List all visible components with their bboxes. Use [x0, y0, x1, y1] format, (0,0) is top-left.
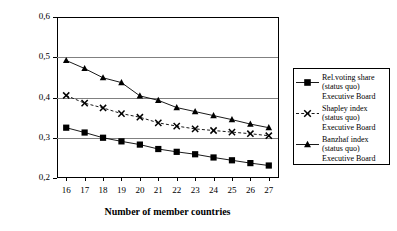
data-series — [63, 92, 272, 138]
y-axis-tick-label: 0,2 — [39, 173, 50, 182]
legend-label-line: Rel.voting share — [322, 73, 376, 82]
y-axis-tick-label: 0,5 — [39, 52, 50, 61]
plot-area — [57, 17, 278, 178]
legend-label-line: (status quo) — [322, 144, 376, 153]
legend-label-line: Shapley index — [322, 104, 376, 113]
series-layer — [57, 17, 278, 178]
legend-marker-x-icon — [294, 105, 321, 116]
legend-entry: Shapley index(status quo)Executive Board — [294, 104, 391, 132]
plot-frame-top — [57, 17, 279, 18]
legend-marker-triangle-icon — [294, 136, 321, 147]
data-series — [63, 125, 272, 169]
legend-marker-square-icon — [294, 74, 321, 85]
legend-label-line: Executive Board — [322, 92, 376, 101]
legend-label-line: Executive Board — [322, 154, 376, 163]
x-axis-tick-label: 27 — [257, 186, 281, 195]
legend-label: Banzhaf index(status quo)Executive Board — [321, 135, 376, 163]
legend-label-line: Banzhaf index — [322, 135, 376, 144]
chart-figure: 0,20,30,40,50,6 161718192021222324252627… — [0, 0, 397, 231]
chart-legend: Rel.voting share(status quo)Executive Bo… — [293, 68, 390, 165]
legend-entry: Banzhaf index(status quo)Executive Board — [294, 135, 391, 163]
data-series — [63, 57, 272, 130]
y-axis-tick — [53, 178, 57, 179]
x-axis-title: Number of member countries — [57, 206, 278, 217]
legend-label-line: (status quo) — [322, 82, 376, 91]
legend-label-line: Executive Board — [322, 123, 376, 132]
legend-label: Rel.voting share(status quo)Executive Bo… — [321, 73, 376, 101]
legend-entry: Rel.voting share(status quo)Executive Bo… — [294, 73, 391, 101]
y-axis-tick-label: 0,6 — [39, 12, 50, 21]
plot-frame-right — [278, 17, 279, 178]
legend-label: Shapley index(status quo)Executive Board — [321, 104, 376, 132]
y-axis-tick-label: 0,4 — [39, 93, 50, 102]
legend-label-line: (status quo) — [322, 113, 376, 122]
y-axis-tick-label: 0,3 — [39, 133, 50, 142]
